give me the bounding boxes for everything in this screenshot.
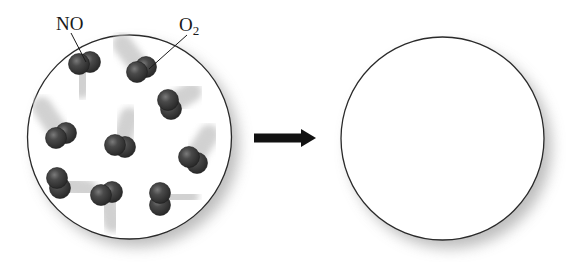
o2-label-subscript: 2 — [193, 23, 200, 38]
o2-label: O2 — [179, 14, 199, 38]
atom — [127, 62, 148, 83]
product-container — [341, 37, 552, 249]
atom — [46, 128, 67, 149]
o2-label-main: O — [179, 14, 193, 35]
reaction-arrow-icon — [254, 129, 316, 147]
no-molecule — [69, 52, 101, 75]
molecule — [150, 183, 171, 216]
atom — [179, 147, 200, 168]
reactant-container — [28, 35, 240, 247]
molecule — [105, 135, 136, 158]
reaction-diagram: NO O2 — [0, 0, 571, 262]
atom — [158, 90, 179, 111]
atom — [150, 183, 171, 204]
product-container-circle — [341, 37, 544, 240]
atom — [69, 54, 90, 75]
atom — [105, 135, 126, 156]
atom — [91, 185, 112, 206]
no-label: NO — [56, 13, 83, 34]
atom — [47, 168, 68, 189]
